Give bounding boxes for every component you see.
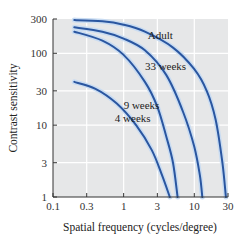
y-tick-label: 300	[31, 13, 48, 25]
x-tick-label: 3	[155, 200, 161, 212]
contrast-sensitivity-chart: 0.10.3131030131030100300 Adult33 weeks9 …	[0, 0, 244, 241]
y-tick-label: 3	[42, 157, 48, 169]
x-axis-title: Spatial frequency (cycles/degree)	[63, 221, 217, 234]
x-tick-label: 0.3	[80, 200, 94, 212]
series-label-33-weeks: 33 weeks	[145, 60, 186, 72]
x-tick-label: 30	[223, 200, 235, 212]
series-label-9-weeks: 9 weeks	[124, 99, 160, 111]
y-tick-label: 30	[36, 85, 48, 97]
x-tick-label: 1	[121, 200, 127, 212]
series-label-4-weeks: 4 weeks	[115, 112, 151, 124]
y-tick-label: 10	[36, 119, 48, 131]
y-axis-title: Contrast sensitivity	[7, 63, 20, 152]
x-tick-label: 0.1	[46, 200, 60, 212]
y-tick-label: 1	[42, 191, 48, 203]
x-tick-label: 10	[189, 200, 201, 212]
y-tick-label: 100	[31, 47, 48, 59]
series-label-adult: Adult	[148, 29, 173, 41]
